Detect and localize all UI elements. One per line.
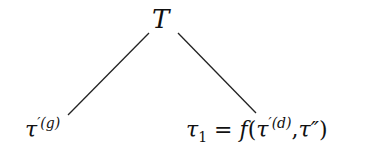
arg1-superscript: (d) bbox=[272, 115, 292, 131]
comma: , bbox=[292, 117, 299, 142]
right-child-node: τ1 = f(τ′(d),τ″) bbox=[186, 117, 328, 142]
function-f: f bbox=[240, 117, 248, 142]
equals-sign: = bbox=[214, 117, 232, 142]
left-superscript: (g) bbox=[40, 115, 60, 131]
arg1-tau: τ bbox=[256, 117, 268, 142]
edge-root-left bbox=[68, 33, 149, 115]
edge-root-right bbox=[178, 33, 256, 113]
close-paren: ) bbox=[319, 117, 328, 142]
open-paren: ( bbox=[248, 117, 257, 142]
right-subscript: 1 bbox=[198, 129, 207, 145]
left-tau: τ bbox=[25, 117, 37, 142]
arg2: τ″ bbox=[299, 117, 319, 142]
root-node: T bbox=[152, 4, 169, 34]
right-tau: τ bbox=[186, 117, 198, 142]
left-child-node: τ′(g) bbox=[25, 117, 60, 142]
